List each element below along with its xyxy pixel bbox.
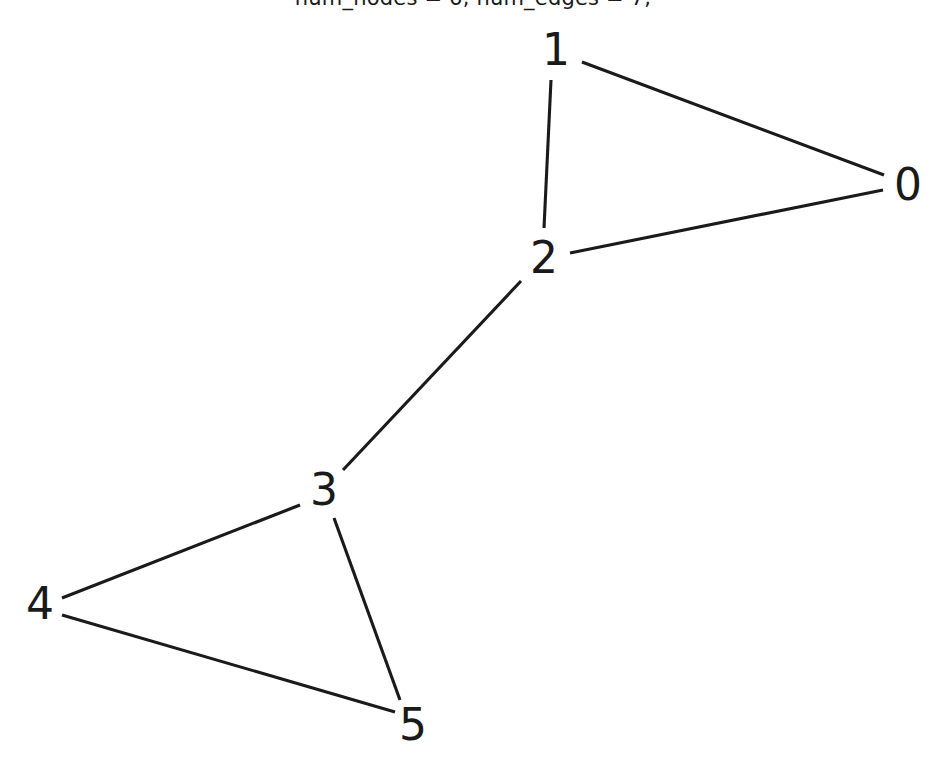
graph-edge-3-5 [334,518,400,700]
graph-edge-2-0 [570,190,883,253]
graph-node-1: 1 [542,28,570,72]
graph-node-5: 5 [399,703,427,747]
graph-node-4: 4 [26,582,54,626]
graph-edge-3-4 [62,505,300,598]
graph-edge-2-3 [343,281,521,470]
graph-node-0: 0 [894,163,922,207]
edge-layer [62,62,884,712]
graph-edge-1-0 [582,62,884,175]
graph-edge-1-2 [544,80,551,228]
graph-node-2: 2 [530,236,558,280]
graph-canvas [0,0,946,771]
graph-figure: num_nodes = 6, num_edges = 7, 0 1 2 3 4 … [0,0,946,771]
graph-edge-4-5 [62,615,395,712]
graph-node-3: 3 [310,468,338,512]
